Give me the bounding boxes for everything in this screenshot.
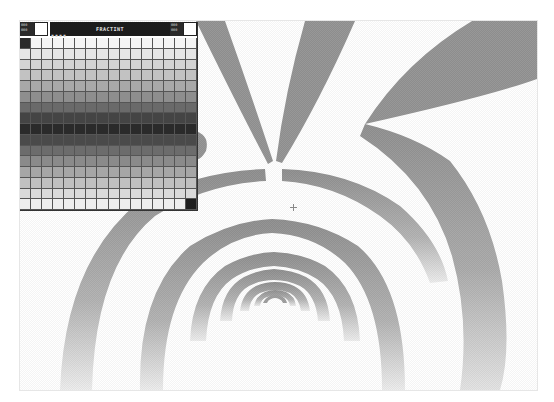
palette-cell[interactable] (131, 60, 142, 71)
palette-cell[interactable] (164, 49, 175, 60)
palette-cell[interactable] (142, 92, 153, 103)
palette-cell[interactable] (97, 103, 108, 114)
palette-cell[interactable] (153, 113, 164, 124)
palette-cell[interactable] (31, 92, 42, 103)
palette-cell[interactable] (120, 156, 131, 167)
palette-cell[interactable] (142, 146, 153, 157)
palette-cell[interactable] (42, 135, 53, 146)
palette-cell[interactable] (42, 156, 53, 167)
palette-cell[interactable] (75, 113, 86, 124)
palette-cell[interactable] (20, 113, 31, 124)
palette-cell[interactable] (142, 70, 153, 81)
palette-cell[interactable] (164, 60, 175, 71)
palette-cell[interactable] (42, 189, 53, 200)
palette-cell[interactable] (20, 38, 31, 49)
palette-cell[interactable] (20, 103, 31, 114)
palette-cell[interactable] (53, 135, 64, 146)
palette-cell[interactable] (20, 178, 31, 189)
palette-cell[interactable] (153, 167, 164, 178)
palette-cell[interactable] (153, 81, 164, 92)
palette-cell[interactable] (20, 199, 31, 210)
palette-cell[interactable] (120, 103, 131, 114)
palette-cell[interactable] (153, 103, 164, 114)
palette-cell[interactable] (164, 124, 175, 135)
palette-cell[interactable] (75, 135, 86, 146)
palette-cell[interactable] (53, 81, 64, 92)
palette-cell[interactable] (64, 113, 75, 124)
palette-cell[interactable] (131, 81, 142, 92)
palette-cell[interactable] (142, 135, 153, 146)
palette-cell[interactable] (64, 189, 75, 200)
palette-cell[interactable] (86, 103, 97, 114)
palette-cell[interactable] (31, 135, 42, 146)
palette-cell[interactable] (120, 38, 131, 49)
palette-cell[interactable] (153, 146, 164, 157)
palette-cell[interactable] (53, 156, 64, 167)
palette-cell[interactable] (20, 124, 31, 135)
palette-cell[interactable] (97, 60, 108, 71)
palette-cell[interactable] (131, 199, 142, 210)
palette-cell[interactable] (31, 81, 42, 92)
palette-cell[interactable] (75, 81, 86, 92)
palette-cell[interactable] (120, 167, 131, 178)
palette-cell[interactable] (153, 49, 164, 60)
palette-cell[interactable] (86, 135, 97, 146)
palette-cell[interactable] (75, 60, 86, 71)
palette-cell[interactable] (53, 199, 64, 210)
palette-cell[interactable] (86, 92, 97, 103)
palette-cell[interactable] (31, 189, 42, 200)
palette-cell[interactable] (20, 167, 31, 178)
palette-cell[interactable] (153, 124, 164, 135)
palette-cell[interactable] (131, 178, 142, 189)
palette-cell[interactable] (53, 178, 64, 189)
palette-cell[interactable] (186, 124, 197, 135)
palette-cell[interactable] (64, 199, 75, 210)
palette-cell[interactable] (64, 135, 75, 146)
palette-cell[interactable] (109, 81, 120, 92)
palette-cell[interactable] (175, 156, 186, 167)
palette-cell[interactable] (53, 146, 64, 157)
palette-cell[interactable] (20, 81, 31, 92)
palette-cell[interactable] (186, 135, 197, 146)
palette-cell[interactable] (53, 49, 64, 60)
palette-cell[interactable] (175, 70, 186, 81)
palette-cell[interactable] (164, 199, 175, 210)
palette-cell[interactable] (75, 189, 86, 200)
palette-cell[interactable] (86, 199, 97, 210)
palette-cell[interactable] (42, 103, 53, 114)
palette-cell[interactable] (97, 189, 108, 200)
palette-cell[interactable] (31, 49, 42, 60)
palette-cell[interactable] (109, 124, 120, 135)
palette-cell[interactable] (31, 199, 42, 210)
palette-cell[interactable] (175, 113, 186, 124)
palette-cell[interactable] (175, 167, 186, 178)
palette-cell[interactable] (164, 189, 175, 200)
palette-cell[interactable] (64, 92, 75, 103)
palette-cell[interactable] (131, 167, 142, 178)
palette-cell[interactable] (53, 38, 64, 49)
palette-cell[interactable] (164, 146, 175, 157)
palette-cell[interactable] (142, 167, 153, 178)
palette-cell[interactable] (64, 178, 75, 189)
palette-cell[interactable] (75, 92, 86, 103)
palette-cell[interactable] (120, 178, 131, 189)
palette-cell[interactable] (86, 156, 97, 167)
palette-cell[interactable] (75, 103, 86, 114)
palette-cell[interactable] (97, 38, 108, 49)
palette-cell[interactable] (97, 167, 108, 178)
palette-cell[interactable] (153, 199, 164, 210)
palette-cell[interactable] (109, 199, 120, 210)
palette-cell[interactable] (120, 81, 131, 92)
palette-cell[interactable] (42, 199, 53, 210)
palette-cell[interactable] (75, 49, 86, 60)
palette-cell[interactable] (120, 60, 131, 71)
palette-cell[interactable] (109, 113, 120, 124)
palette-cell[interactable] (97, 113, 108, 124)
palette-cell[interactable] (97, 156, 108, 167)
palette-cell[interactable] (109, 167, 120, 178)
palette-cell[interactable] (20, 146, 31, 157)
palette-cell[interactable] (109, 70, 120, 81)
palette-cell[interactable] (153, 70, 164, 81)
palette-cell[interactable] (42, 146, 53, 157)
palette-cell[interactable] (142, 178, 153, 189)
